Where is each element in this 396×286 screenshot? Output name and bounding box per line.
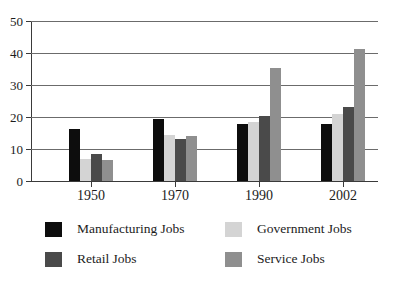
chart-page: 01020304050 1950197019902002 Manufacturi… bbox=[0, 0, 396, 286]
y-tick-mark-50 bbox=[26, 21, 31, 22]
legend-swatch-icon bbox=[225, 222, 242, 237]
legend-label: Government Jobs bbox=[257, 221, 352, 237]
bar-group-1970: 1970 bbox=[149, 21, 201, 181]
gridline-0 bbox=[31, 181, 378, 182]
bar-service-jobs-2002 bbox=[354, 49, 365, 181]
bar-service-jobs-1970 bbox=[186, 136, 197, 181]
y-tick-label-40: 40 bbox=[10, 47, 23, 60]
bar-retail-jobs-1970 bbox=[175, 139, 186, 181]
y-tick-mark-20 bbox=[26, 117, 31, 118]
y-tick-mark-40 bbox=[26, 53, 31, 54]
legend-swatch-icon bbox=[45, 222, 62, 237]
bar-government-jobs-1990 bbox=[248, 122, 259, 181]
bar-government-jobs-1950 bbox=[80, 159, 91, 181]
bar-government-jobs-2002 bbox=[332, 114, 343, 181]
y-tick-mark-30 bbox=[26, 85, 31, 86]
x-tick-label-1970: 1970 bbox=[161, 188, 189, 204]
bar-retail-jobs-1990 bbox=[259, 116, 270, 181]
x-tick-mark-1970 bbox=[175, 181, 176, 187]
y-tick-mark-0 bbox=[26, 181, 31, 182]
y-tick-label-20: 20 bbox=[10, 111, 23, 124]
bar-manufacturing-jobs-2002 bbox=[321, 124, 332, 181]
chart-legend: Manufacturing JobsGovernment JobsRetail … bbox=[45, 214, 375, 274]
bar-retail-jobs-1950 bbox=[91, 154, 102, 181]
bar-manufacturing-jobs-1990 bbox=[237, 124, 248, 181]
legend-item-manufacturing-jobs[interactable]: Manufacturing Jobs bbox=[45, 221, 225, 237]
x-tick-mark-2002 bbox=[343, 181, 344, 187]
x-tick-mark-1950 bbox=[91, 181, 92, 187]
bar-manufacturing-jobs-1950 bbox=[69, 129, 80, 181]
y-tick-label-50: 50 bbox=[10, 15, 23, 28]
legend-label: Retail Jobs bbox=[77, 251, 137, 267]
bar-group-2002: 2002 bbox=[317, 21, 369, 181]
legend-item-service-jobs[interactable]: Service Jobs bbox=[225, 251, 375, 267]
bar-government-jobs-1970 bbox=[164, 135, 175, 181]
bar-group-1950: 1950 bbox=[65, 21, 117, 181]
y-tick-label-0: 0 bbox=[17, 175, 24, 188]
legend-swatch-icon bbox=[45, 252, 62, 267]
legend-label: Manufacturing Jobs bbox=[77, 221, 185, 237]
bar-retail-jobs-2002 bbox=[343, 107, 354, 181]
bar-manufacturing-jobs-1970 bbox=[153, 119, 164, 181]
legend-item-government-jobs[interactable]: Government Jobs bbox=[225, 221, 375, 237]
bar-service-jobs-1990 bbox=[270, 68, 281, 181]
y-axis-line bbox=[31, 21, 32, 181]
x-tick-label-1950: 1950 bbox=[77, 188, 105, 204]
bar-service-jobs-1950 bbox=[102, 160, 113, 181]
legend-swatch-icon bbox=[225, 252, 242, 267]
y-tick-label-30: 30 bbox=[10, 79, 23, 92]
x-tick-label-1990: 1990 bbox=[245, 188, 273, 204]
plot-area: 01020304050 1950197019902002 bbox=[31, 21, 378, 181]
x-tick-mark-1990 bbox=[259, 181, 260, 187]
x-tick-label-2002: 2002 bbox=[329, 188, 357, 204]
bar-group-1990: 1990 bbox=[233, 21, 285, 181]
y-tick-mark-10 bbox=[26, 149, 31, 150]
legend-item-retail-jobs[interactable]: Retail Jobs bbox=[45, 251, 225, 267]
y-tick-label-10: 10 bbox=[10, 143, 23, 156]
legend-label: Service Jobs bbox=[257, 251, 325, 267]
